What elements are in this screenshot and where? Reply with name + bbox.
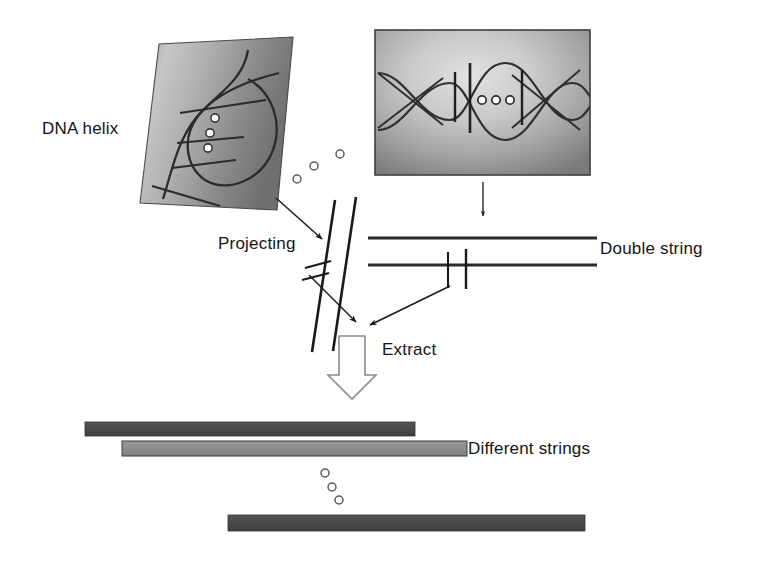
free-circle bbox=[293, 175, 301, 183]
diagram-canvas bbox=[0, 0, 757, 561]
free-circle bbox=[335, 496, 343, 504]
string-bar-3 bbox=[228, 515, 585, 531]
projecting-arrow bbox=[276, 198, 322, 239]
helix-marker-circle bbox=[206, 129, 214, 137]
helix-marker-circle bbox=[204, 144, 212, 152]
free-circles-upper bbox=[293, 150, 344, 183]
free-circle bbox=[321, 469, 329, 477]
string-bar-1 bbox=[85, 422, 415, 436]
label-extract: Extract bbox=[382, 341, 436, 360]
label-different-strings: Different strings bbox=[468, 440, 590, 459]
free-circle bbox=[336, 150, 344, 158]
double-helix-panel bbox=[375, 30, 592, 175]
double-string bbox=[368, 238, 597, 289]
label-double-string: Double string bbox=[600, 240, 703, 259]
projected-strand-tick-2 bbox=[302, 273, 329, 280]
free-circles-lower bbox=[321, 469, 343, 504]
helix-marker-circle bbox=[211, 114, 219, 122]
projected-strand-tick-1 bbox=[305, 261, 331, 268]
label-dna-helix: DNA helix bbox=[42, 120, 118, 139]
projected-strands bbox=[302, 197, 356, 352]
double-string-to-extract-arrow bbox=[370, 286, 450, 325]
free-circle bbox=[328, 483, 336, 491]
extract-block-arrow bbox=[328, 336, 376, 399]
double-helix-marker-circle bbox=[478, 96, 486, 104]
free-circle bbox=[310, 162, 318, 170]
projected-strand-right bbox=[333, 197, 356, 351]
dna-projection-figure: DNA helix Projecting Double string Extra… bbox=[0, 0, 757, 561]
dna-helix-panel bbox=[140, 37, 293, 210]
string-bar-2 bbox=[122, 441, 467, 456]
label-projecting: Projecting bbox=[218, 235, 296, 254]
strand-to-extract-arrow bbox=[309, 275, 356, 322]
double-helix-marker-circle bbox=[506, 96, 514, 104]
double-helix-marker-circle bbox=[492, 96, 500, 104]
